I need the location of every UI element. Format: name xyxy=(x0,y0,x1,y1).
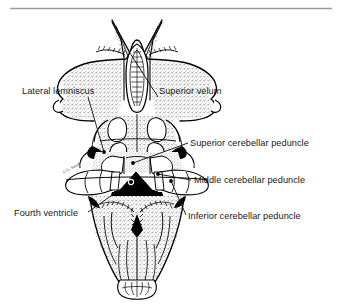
brainstem-diagram: C.G. Smith Lateral lemniscus Superior ve… xyxy=(0,0,338,304)
label-superior-cerebellar-peduncle: Superior cerebellar peduncle xyxy=(190,138,309,148)
label-lateral-lemniscus: Lateral lemniscus xyxy=(22,86,95,96)
inferior-peduncle-left xyxy=(110,172,120,190)
superior-velum-region xyxy=(53,20,221,121)
label-fourth-ventricle: Fourth ventricle xyxy=(14,208,78,218)
superior-colliculus-right xyxy=(147,118,166,142)
superior-colliculus-left xyxy=(108,118,127,142)
marker-middle-cerebellar-peduncle xyxy=(156,172,160,176)
medulla-region xyxy=(88,196,186,299)
artist-mark: C.G. Smith xyxy=(62,161,82,175)
middle-peduncle-left xyxy=(66,170,114,195)
marker-inferior-cerebellar-peduncle xyxy=(169,179,173,183)
anatomy-figure: C.G. Smith Lateral lemniscus Superior ve… xyxy=(0,0,338,304)
label-inferior-cerebellar-peduncle: Inferior cerebellar peduncle xyxy=(188,211,301,221)
label-middle-cerebellar-peduncle: Middle cerebellar peduncle xyxy=(194,175,305,185)
marker-superior-cerebellar-peduncle xyxy=(131,161,135,165)
label-superior-velum: Superior velum xyxy=(159,86,222,96)
marker-lateral-lemniscus xyxy=(102,150,106,154)
